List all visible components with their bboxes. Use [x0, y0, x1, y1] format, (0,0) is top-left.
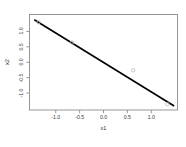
y-axis-ticks [26, 31, 29, 93]
y-tick-label: 1.0 [19, 28, 24, 35]
plot-canvas [0, 0, 186, 147]
y-axis-title: x2 [5, 59, 11, 65]
fitted-line [34, 20, 174, 106]
scatter-plot-figure: -1.0-0.50.00.51.0 -1.0-0.50.00.51.0 x1 x… [0, 0, 186, 147]
x-tick-label: -1.0 [51, 115, 60, 120]
y-tick-label: 0.5 [19, 43, 24, 50]
x-tick-label: 0.0 [100, 115, 107, 120]
y-tick-label: 0.0 [19, 59, 24, 66]
x-tick-label: -0.5 [75, 115, 84, 120]
data-point [166, 102, 169, 105]
data-point [131, 69, 134, 72]
x-tick-label: 1.0 [148, 115, 155, 120]
x-tick-label: 0.5 [124, 115, 131, 120]
regression-line [34, 20, 174, 106]
y-tick-label: -0.5 [19, 73, 24, 82]
x-axis-title: x1 [101, 126, 107, 132]
y-tick-label: -1.0 [19, 89, 24, 98]
